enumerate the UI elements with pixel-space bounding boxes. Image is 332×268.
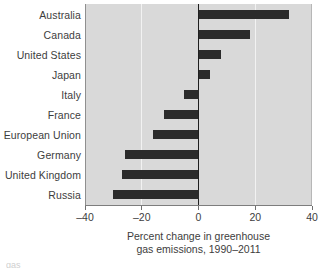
- x-axis-label-line-1: Percent change in greenhouse: [85, 230, 312, 243]
- plot-border-right: [311, 4, 312, 205]
- bar-chart-figure: Australia Canada United States Japan Ita…: [0, 0, 332, 268]
- bar-canada: [199, 30, 250, 39]
- plot-area: [85, 4, 312, 205]
- x-axis-label: Percent change in greenhouse gas emissio…: [85, 230, 312, 255]
- x-tick-label-plus-40: 40: [306, 211, 318, 223]
- plot-border-left: [85, 4, 86, 205]
- category-label-united-kingdom: United Kingdom: [0, 170, 81, 181]
- tick-mark-minus-40: [85, 206, 86, 210]
- bar-european-union: [153, 130, 198, 139]
- x-axis-ticks: –40 –20 0 20 40: [0, 206, 332, 226]
- category-label-canada: Canada: [0, 30, 81, 41]
- bar-germany: [125, 150, 199, 159]
- category-label-italy: Italy: [0, 90, 81, 101]
- x-tick-label-minus-20: –20: [133, 211, 151, 223]
- bar-france: [164, 110, 198, 119]
- bar-russia: [113, 190, 198, 199]
- bar-united-kingdom: [122, 170, 199, 179]
- category-label-russia: Russia: [0, 190, 81, 201]
- x-tick-label-minus-40: –40: [76, 211, 94, 223]
- x-tick-label-zero: 0: [196, 211, 202, 223]
- category-label-france: France: [0, 110, 81, 121]
- category-axis: Australia Canada United States Japan Ita…: [0, 4, 81, 205]
- tick-mark-plus-20: [255, 206, 256, 210]
- x-axis-label-line-2: gas emissions, 1990–2011: [85, 243, 312, 256]
- bar-australia: [199, 10, 290, 19]
- category-label-australia: Australia: [0, 10, 81, 21]
- x-tick-label-plus-20: 20: [249, 211, 261, 223]
- tick-mark-plus-40: [312, 206, 313, 210]
- bar-italy: [184, 90, 198, 99]
- gridline-plus-20: [255, 4, 256, 205]
- bar-united-states: [199, 50, 222, 59]
- tick-mark-minus-20: [141, 206, 142, 210]
- category-label-germany: Germany: [0, 150, 81, 161]
- tick-mark-zero: [198, 206, 199, 210]
- bar-japan: [199, 70, 210, 79]
- category-label-japan: Japan: [0, 70, 81, 81]
- footer-text-fragment: gas: [6, 261, 21, 268]
- category-label-united-states: United States: [0, 50, 81, 61]
- category-label-european-union: European Union: [0, 130, 81, 141]
